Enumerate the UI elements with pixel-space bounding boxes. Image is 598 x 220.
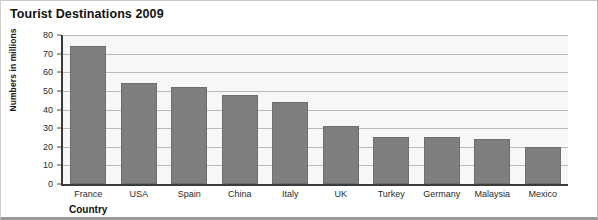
bar-slot [265,35,316,184]
y-axis-tick-70: 70 [43,49,53,59]
x-axis-label-germany: Germany [417,189,468,199]
x-axis-label-china: China [215,189,266,199]
chart-figure: Tourist Destinations 2009 Numbers in mil… [0,0,598,220]
x-axis-label-uk: UK [316,189,367,199]
y-axis-tick-50: 50 [43,86,53,96]
x-axis-title: Country [69,204,107,215]
bar-series [63,35,568,184]
chart-plot-wrapper: Numbers in millions 01020304050607080 Fr… [1,1,598,220]
y-axis-tick-labels: 01020304050607080 [31,29,57,189]
y-axis-tick-20: 20 [43,142,53,152]
bar-slot [366,35,417,184]
bar-usa [121,83,157,184]
bar-slot [164,35,215,184]
bar-slot [114,35,165,184]
y-axis-tick-40: 40 [43,105,53,115]
bar-italy [272,102,308,184]
x-axis-tick-labels: FranceUSASpainChinaItalyUKTurkeyGermanyM… [63,189,568,199]
bar-china [222,95,258,184]
y-axis-title: Numbers in millions [8,10,18,130]
bar-germany [424,137,460,184]
plot-area [61,35,568,186]
bar-slot [215,35,266,184]
y-axis-tick-60: 60 [43,67,53,77]
bar-spain [171,87,207,184]
bar-slot [417,35,468,184]
x-axis-label-spain: Spain [164,189,215,199]
x-axis-label-france: France [63,189,114,199]
bar-uk [323,126,359,184]
bar-france [70,46,106,184]
x-axis-label-turkey: Turkey [366,189,417,199]
bar-slot [63,35,114,184]
bar-slot [518,35,569,184]
y-axis-tick-0: 0 [48,179,53,189]
x-axis-label-usa: USA [114,189,165,199]
bar-slot [316,35,367,184]
y-axis-tick-80: 80 [43,30,53,40]
bar-turkey [373,137,409,184]
x-axis-label-mexico: Mexico [518,189,569,199]
bar-malaysia [474,139,510,184]
bar-mexico [525,147,561,184]
x-axis-label-malaysia: Malaysia [467,189,518,199]
bar-slot [467,35,518,184]
x-axis-label-italy: Italy [265,189,316,199]
y-axis-tick-10: 10 [43,160,53,170]
y-axis-tick-30: 30 [43,123,53,133]
